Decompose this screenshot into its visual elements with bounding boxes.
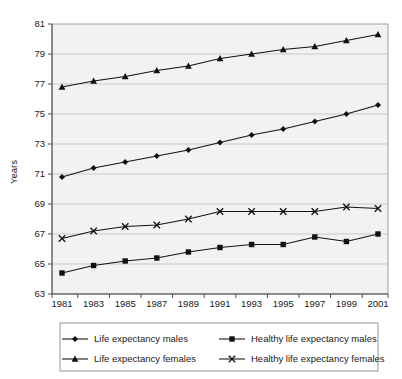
plot-area-background <box>52 24 388 294</box>
y-tick-label: 71 <box>34 168 45 179</box>
legend: Life expectancy malesHealthy life expect… <box>60 323 385 371</box>
y-tick-label: 63 <box>34 288 45 299</box>
data-point-marker-square <box>154 255 159 260</box>
y-tick-label: 77 <box>34 78 45 89</box>
data-point-marker-square <box>217 245 222 250</box>
legend-label: Healthy life expectancy females <box>251 353 385 364</box>
data-point-marker-square <box>229 336 234 341</box>
x-tick-label: 1991 <box>209 298 230 309</box>
legend-label: Life expectancy females <box>94 353 196 364</box>
data-point-marker-square <box>186 249 191 254</box>
y-tick-label: 65 <box>34 258 45 269</box>
legend-label: Healthy life expectancy males <box>251 333 377 344</box>
y-tick-label: 75 <box>34 108 45 119</box>
data-point-marker-square <box>59 270 64 275</box>
line-chart: 81797775737169676563 1981198319851987198… <box>0 0 402 379</box>
x-tick-label: 1987 <box>146 298 167 309</box>
y-tick-label: 73 <box>34 138 45 149</box>
x-tick-label: 1989 <box>178 298 199 309</box>
data-point-marker-square <box>344 239 349 244</box>
x-tick-label: 1993 <box>241 298 262 309</box>
y-tick-label: 79 <box>34 48 45 59</box>
x-tick-label: 1981 <box>51 298 72 309</box>
data-point-marker-square <box>123 258 128 263</box>
data-point-marker-square <box>249 242 254 247</box>
x-tick-label: 2001 <box>367 298 388 309</box>
x-tick-label: 1999 <box>336 298 357 309</box>
chart-container: 81797775737169676563 1981198319851987198… <box>0 0 402 379</box>
y-tick-label: 81 <box>34 18 45 29</box>
data-point-marker-square <box>312 234 317 239</box>
x-tick-label: 1985 <box>115 298 136 309</box>
data-point-marker-square <box>281 242 286 247</box>
x-tick-label: 1995 <box>273 298 294 309</box>
y-axis-title: Years <box>8 160 19 184</box>
x-tick-label: 1997 <box>304 298 325 309</box>
data-point-marker-square <box>375 231 380 236</box>
data-point-marker-square <box>91 263 96 268</box>
y-tick-label: 69 <box>34 198 45 209</box>
legend-label: Life expectancy males <box>94 333 188 344</box>
y-tick-label: 67 <box>34 228 45 239</box>
x-tick-label: 1983 <box>83 298 104 309</box>
